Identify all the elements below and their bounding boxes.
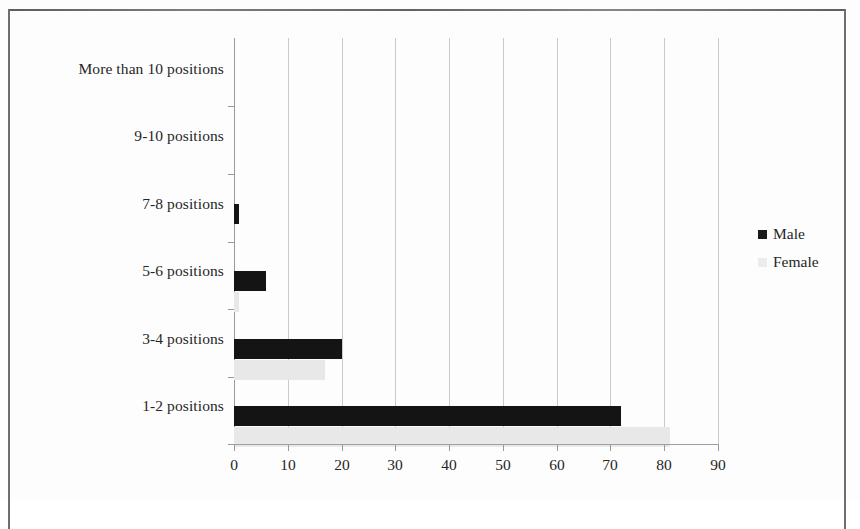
chart-legend: Male Female: [758, 220, 853, 276]
y-tick-label-more-than-10: More than 10 positions: [14, 60, 224, 77]
x-tick-label-10: 10: [268, 456, 308, 474]
x-axis-tick: [395, 445, 396, 451]
x-axis-tick: [342, 445, 343, 451]
bar-male-7-8: [234, 204, 239, 224]
y-tick-label-7-8: 7-8 positions: [14, 195, 224, 212]
legend-swatch-male-icon: [758, 230, 767, 239]
bar-male-3-4: [234, 339, 342, 359]
x-tick-label-90: 90: [698, 456, 738, 474]
x-tick-label-60: 60: [537, 456, 577, 474]
gridline-70: [610, 38, 611, 444]
gridline-30: [395, 38, 396, 444]
x-axis-line: [234, 444, 719, 445]
x-axis-tick: [449, 445, 450, 451]
x-axis-labels: 0 10 20 30 40 50 60 70 80 90: [0, 456, 860, 484]
x-axis-tick: [610, 445, 611, 451]
legend-entry-female: Female: [758, 248, 853, 276]
x-axis-tick: [664, 445, 665, 451]
legend-label-male: Male: [773, 225, 805, 243]
x-tick-label-0: 0: [214, 456, 254, 474]
plot-area: [234, 38, 718, 444]
x-tick-label-80: 80: [644, 456, 684, 474]
y-axis-labels: More than 10 positions 9-10 positions 7-…: [14, 0, 224, 499]
x-axis-tick: [718, 445, 719, 451]
y-tick-label-3-4: 3-4 positions: [14, 330, 224, 347]
bar-female-3-4: [234, 360, 325, 380]
legend-label-female: Female: [773, 253, 819, 271]
x-axis-tick: [234, 445, 235, 451]
gridline-80: [664, 38, 665, 444]
legend-entry-male: Male: [758, 220, 853, 248]
bar-female-5-6: [234, 292, 239, 312]
bar-male-1-2: [234, 406, 621, 426]
y-tick-label-5-6: 5-6 positions: [14, 262, 224, 279]
gridline-60: [557, 38, 558, 444]
gridline-50: [503, 38, 504, 444]
gridline-90: [718, 38, 719, 444]
gridline-40: [449, 38, 450, 444]
bar-male-5-6: [234, 271, 266, 291]
legend-swatch-female-icon: [758, 258, 767, 267]
x-tick-label-70: 70: [590, 456, 630, 474]
x-tick-label-50: 50: [483, 456, 523, 474]
x-tick-label-30: 30: [375, 456, 415, 474]
x-axis-tick: [503, 445, 504, 451]
y-tick-label-1-2: 1-2 positions: [14, 397, 224, 414]
x-axis-tick: [557, 445, 558, 451]
gridline-10: [288, 38, 289, 444]
gridline-20: [342, 38, 343, 444]
y-tick-label-9-10: 9-10 positions: [14, 127, 224, 144]
x-tick-label-20: 20: [322, 456, 362, 474]
x-tick-label-40: 40: [429, 456, 469, 474]
x-axis-tick: [288, 445, 289, 451]
gridline-0: [234, 38, 235, 444]
